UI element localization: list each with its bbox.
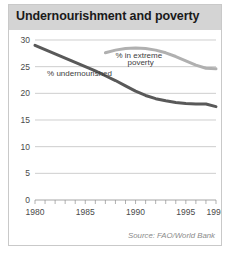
x-tick-label: 1980	[26, 207, 45, 217]
chart-plot-area: 051015202530 19801985199019951998 % in e…	[9, 30, 221, 245]
chart-header: Undernourishment and poverty	[9, 5, 221, 30]
x-tick-label: 1985	[76, 207, 95, 217]
y-tick-label: 5	[25, 168, 30, 178]
series-labels: % in extremepoverty% undernourished	[47, 51, 163, 78]
series-annotation: poverty	[128, 58, 154, 67]
x-tick-label: 1998	[207, 207, 221, 217]
x-axis	[35, 200, 216, 204]
x-tick-label: 1995	[176, 207, 195, 217]
y-tick-label: 10	[21, 142, 31, 152]
y-tick-label: 30	[21, 35, 31, 45]
x-tick-label: 1990	[126, 207, 145, 217]
gridlines	[35, 40, 216, 200]
chart-panel: Undernourishment and poverty 05101520253…	[8, 4, 222, 246]
y-tick-label: 20	[21, 88, 31, 98]
y-axis-tick-labels: 051015202530	[21, 35, 31, 205]
y-tick-label: 0	[25, 195, 30, 205]
series-annotation: % undernourished	[47, 69, 112, 78]
page-title: Undernourishment and poverty	[16, 9, 199, 23]
y-tick-label: 25	[21, 62, 31, 72]
line-chart: 051015202530 19801985199019951998 % in e…	[9, 30, 221, 245]
source-note: Source: FAO/World Bank	[128, 231, 216, 240]
y-tick-label: 15	[21, 115, 31, 125]
x-axis-tick-labels: 19801985199019951998	[26, 207, 221, 217]
